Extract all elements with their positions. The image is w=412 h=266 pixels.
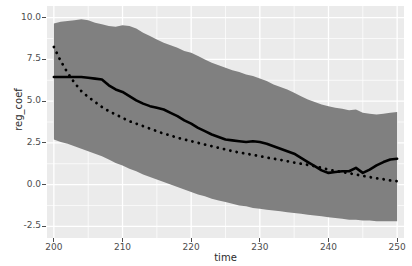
y-tick-label: 7.5 — [7, 54, 41, 63]
y-tick-mark — [42, 101, 46, 102]
y-tick-label: 0.0 — [7, 180, 41, 189]
chart-container: reg_coef time 10.07.55.02.50.0-2.5 20021… — [0, 0, 412, 266]
y-tick-label: 10.0 — [7, 13, 41, 22]
x-tick-label: 220 — [171, 243, 211, 252]
plot-svg — [47, 6, 404, 238]
y-tick-label: 5.0 — [7, 96, 41, 105]
x-tick-label: 240 — [308, 243, 348, 252]
x-tick-label: 250 — [377, 243, 412, 252]
plot-panel — [47, 6, 404, 238]
x-tick-label: 200 — [34, 243, 74, 252]
y-tick-mark — [42, 17, 46, 18]
y-tick-label: 2.5 — [7, 138, 41, 147]
x-tick-label: 230 — [240, 243, 280, 252]
y-tick-mark — [42, 142, 46, 143]
x-tick-label: 210 — [103, 243, 143, 252]
y-tick-mark — [42, 184, 46, 185]
x-axis-title: time — [47, 252, 404, 263]
y-tick-mark — [42, 59, 46, 60]
y-tick-label: -2.5 — [7, 221, 41, 230]
y-tick-mark — [42, 226, 46, 227]
